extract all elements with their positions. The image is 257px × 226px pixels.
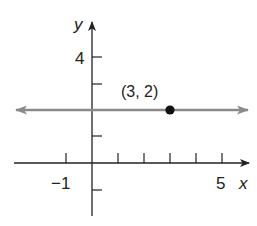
graph-plot: y 4 (3, 2) −1 5 x <box>0 0 257 226</box>
y-axis-label: y <box>73 15 84 34</box>
x-tick-label-neg1: −1 <box>51 174 70 193</box>
x-tick-label-5: 5 <box>216 174 225 193</box>
y-tick-label-4: 4 <box>75 49 84 68</box>
x-axis-label: x <box>238 174 248 193</box>
point-3-2 <box>165 105 174 114</box>
y-ticks <box>92 57 102 190</box>
x-ticks <box>66 153 222 163</box>
point-label: (3, 2) <box>121 83 158 100</box>
